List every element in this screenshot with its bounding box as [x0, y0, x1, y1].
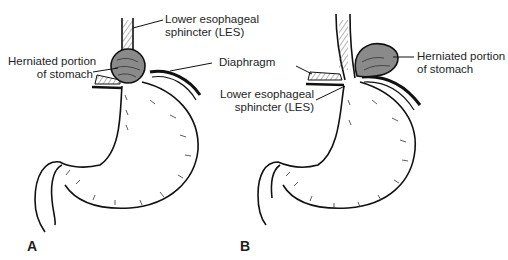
panel-b-herniated-label: Herniated portion of stomach: [417, 50, 505, 76]
panel-b-diaphragm: [306, 72, 420, 110]
panel-a-herniated-stomach: [111, 49, 145, 83]
panel-b-herniated-label-line2: of stomach: [417, 63, 505, 76]
panel-b-les-leader: [316, 86, 345, 100]
diaphragm-label: Diaphragm: [219, 56, 275, 69]
panel-a-les-label-line1: Lower esophageal: [165, 13, 259, 26]
panel-b-diaphragm-leader: [296, 66, 312, 74]
panel-a-diaphragm: [92, 71, 200, 100]
panel-a-diaphragm-leader: [170, 63, 212, 71]
panel-a-herniated-label-line1: Herniated portion: [8, 55, 93, 68]
panel-b-drawing: [258, 14, 420, 225]
panel-a-esophagus: [122, 18, 133, 50]
panel-a-les-leader: [133, 20, 163, 28]
panel-b-herniated-stomach: [355, 44, 398, 77]
panel-a-herniated-label-line2: of stomach: [8, 68, 93, 81]
panel-a-les-label: Lower esophageal sphincter (LES): [165, 13, 259, 39]
panel-b-esophagus: [336, 14, 355, 80]
panel-b-herniated-label-line1: Herniated portion: [417, 50, 505, 63]
panel-a-herniated-label: Herniated portion of stomach: [8, 55, 93, 81]
panel-a-stomach: [35, 82, 198, 232]
panel-b-les-label-line1: Lower esophageal: [218, 88, 314, 101]
panel-a-drawing: [35, 18, 200, 232]
panel-b-les-label-line2: sphincter (LES): [218, 101, 314, 114]
panel-b-les-label: Lower esophageal sphincter (LES): [218, 88, 314, 114]
panel-a-les-label-line2: sphincter (LES): [165, 26, 259, 39]
panel-b-letter: B: [240, 238, 250, 254]
hiatal-hernia-illustration: [0, 0, 508, 260]
panel-a-letter: A: [27, 238, 37, 254]
